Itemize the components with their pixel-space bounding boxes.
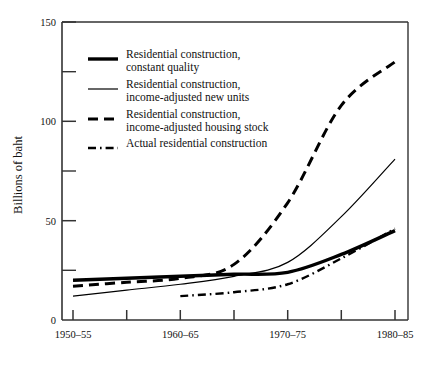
y-tick-label-100: 100 [40, 116, 56, 127]
legend-label-1-line1: Residential construction, [126, 48, 240, 61]
legend-label-4-line1: Actual residential construction [126, 137, 267, 149]
x-tick-label-1970-75: 1970–75 [269, 329, 306, 340]
legend-label-2-line1: Residential construction, [126, 78, 240, 91]
x-tick-label-1960-65: 1960–65 [162, 329, 199, 340]
x-tick-label-1950-55: 1950–55 [55, 329, 92, 340]
chart-figure: 150 100 50 0 Billions of baht 1950–55 19… [0, 0, 428, 366]
y-tick-label-0: 0 [51, 315, 56, 326]
line-chart: 150 100 50 0 Billions of baht 1950–55 19… [0, 0, 428, 366]
y-tick-label-150: 150 [40, 17, 56, 28]
x-tick-label-1980-85: 1980–85 [377, 329, 414, 340]
y-tick-label-50: 50 [46, 216, 57, 227]
y-axis-title: Billions of baht [11, 136, 25, 214]
legend-label-3-line1: Residential construction, [126, 108, 240, 121]
legend-label-1-line2: constant quality [126, 61, 199, 74]
legend-label-2-line2: income-adjusted new units [126, 91, 250, 104]
chart-legend: Residential construction, constant quali… [88, 48, 269, 149]
series-line [73, 231, 395, 281]
legend-label-3-line2: income-adjusted housing stock [126, 121, 269, 134]
